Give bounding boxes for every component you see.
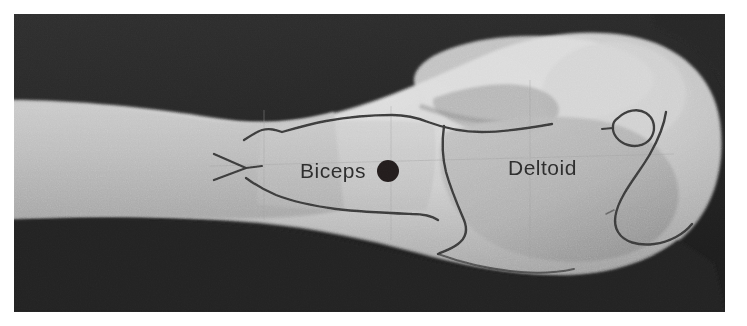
- anatomy-photograph: Biceps Deltoid: [14, 14, 725, 312]
- photo-canvas: Biceps Deltoid: [14, 14, 725, 312]
- acromion-landmark-tick: [602, 128, 613, 129]
- label-deltoid: Deltoid: [508, 156, 577, 179]
- figure-root: Biceps Deltoid: [0, 0, 747, 326]
- injection-site-dot: [377, 160, 399, 182]
- label-biceps: Biceps: [300, 159, 366, 182]
